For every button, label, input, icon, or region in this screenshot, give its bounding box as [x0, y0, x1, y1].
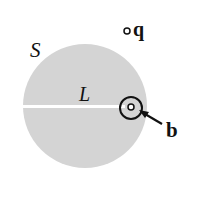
label-boundary: b — [166, 118, 178, 142]
boundary-center-dot — [128, 104, 134, 110]
label-surface: S — [30, 38, 41, 62]
label-line: L — [78, 83, 90, 105]
line-cut — [22, 105, 125, 108]
diagram: S L q b — [0, 0, 203, 204]
arrow-shaft — [145, 114, 162, 124]
charge-point — [124, 28, 130, 34]
label-charge: q — [133, 18, 144, 41]
